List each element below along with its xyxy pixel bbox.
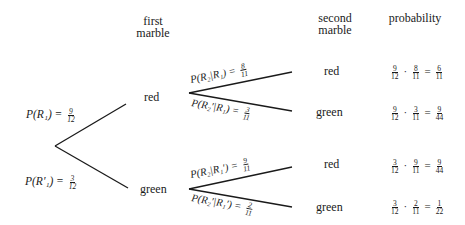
outcome-first-red: red (144, 91, 159, 103)
operator: · (404, 159, 408, 171)
denominator: 11 (241, 113, 251, 121)
fraction: 912 (390, 106, 400, 121)
denominator: 12 (390, 73, 400, 80)
product-row-4: 312·211=122 (389, 200, 445, 215)
denominator: 44 (435, 114, 445, 121)
fraction: 312 (390, 159, 400, 174)
fraction: 312 (390, 200, 400, 215)
operator: = (424, 159, 430, 171)
denominator: 11 (411, 208, 420, 215)
prob-first-red: P(R₁) = 912 (26, 108, 77, 123)
denominator: 11 (411, 114, 420, 121)
denominator: 11 (244, 209, 254, 217)
denominator: 11 (242, 164, 252, 173)
fraction: 912 (390, 65, 400, 80)
outcome-second-green-1: green (316, 106, 343, 118)
header-first-line2: marble (128, 27, 178, 39)
operator: = (424, 200, 430, 212)
operator: · (404, 106, 408, 118)
outcome-second-green-2: green (316, 201, 343, 213)
denominator: 11 (435, 73, 444, 80)
denominator: 44 (435, 167, 445, 174)
prob-first-green: P(R′₁) = 312 (25, 175, 78, 190)
fraction: 911 (411, 159, 420, 174)
prob-expr: P(R′₁) = (25, 175, 67, 187)
fraction: 311 (241, 105, 252, 121)
header-second-marble: second marble (309, 12, 361, 36)
fraction: 944 (435, 106, 445, 121)
product-row-3: 312·911=944 (389, 159, 445, 174)
fraction: 912 (66, 108, 76, 123)
fraction: 211 (411, 200, 420, 215)
outcome-first-green: green (140, 183, 167, 195)
header-probability: probability (385, 12, 445, 24)
operator: = (424, 106, 430, 118)
fraction: 311 (411, 106, 420, 121)
fraction: 911 (240, 156, 252, 172)
operator: = (424, 65, 430, 77)
denominator: 12 (68, 183, 78, 190)
denominator: 11 (239, 69, 249, 78)
product-row-1: 912·811=611 (389, 65, 445, 80)
fraction: 944 (435, 159, 445, 174)
fraction: 811 (238, 62, 250, 78)
denominator: 12 (66, 116, 76, 123)
prob-expr: P(R₁) = (26, 108, 65, 120)
denominator: 22 (435, 208, 445, 215)
operator: · (404, 65, 408, 77)
fraction: 211 (244, 201, 255, 217)
header-first-marble: first marble (128, 15, 178, 39)
denominator: 12 (390, 167, 400, 174)
outcome-second-red-2: red (324, 158, 339, 170)
operator: · (404, 200, 408, 212)
outcome-second-red-1: red (324, 65, 339, 77)
denominator: 11 (411, 73, 420, 80)
fraction: 811 (411, 65, 420, 80)
fraction: 611 (435, 65, 444, 80)
fraction: 122 (435, 200, 445, 215)
denominator: 12 (390, 208, 400, 215)
header-second-line2: marble (309, 24, 361, 36)
product-row-2: 912·311=944 (389, 106, 445, 121)
fraction: 312 (68, 175, 78, 190)
denominator: 12 (390, 114, 400, 121)
denominator: 11 (411, 167, 420, 174)
